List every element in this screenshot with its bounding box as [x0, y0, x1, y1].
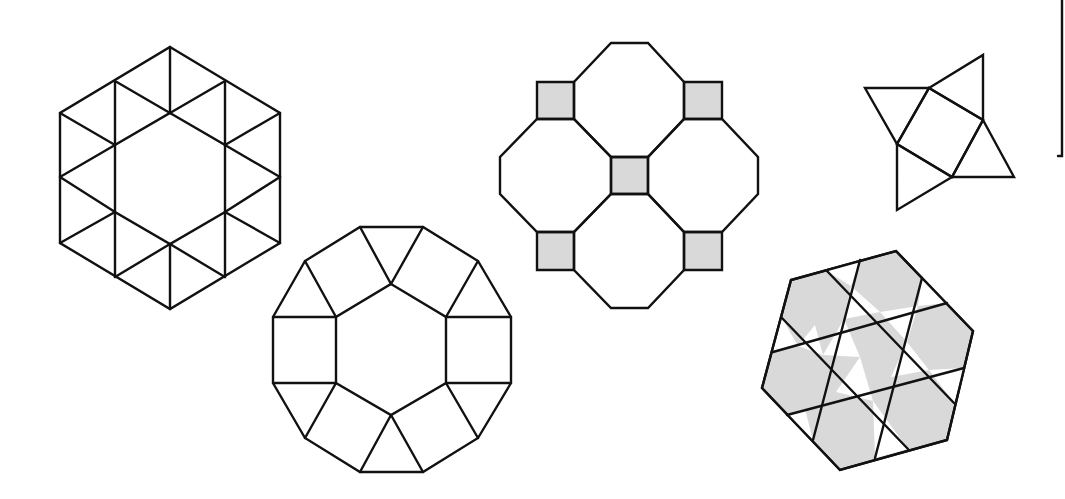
hexagon-triangles-edge-line	[60, 113, 115, 145]
square-four-triangles-polygon	[897, 88, 983, 177]
dodecagon-squares-triangles-edge-line	[305, 383, 336, 438]
octagons-squares-polygon	[684, 82, 722, 119]
hexagon-triangles-figure	[60, 47, 280, 309]
tessellation-diagram	[0, 0, 1065, 499]
dodecagon-squares-triangles-edge-line	[360, 227, 391, 284]
dodecagon-squares-triangles-edge-line	[391, 227, 423, 284]
hexagon-triangles-polygon	[115, 113, 225, 244]
octagons-squares-polygon	[611, 157, 648, 194]
gray-hexagon-trihexagonal-figure	[762, 251, 973, 470]
hexagon-triangles-edge-line	[60, 145, 115, 177]
octagons-squares-polygon	[574, 43, 684, 157]
square-four-triangles-polygon	[897, 144, 952, 210]
hexagon-triangles-edge-line	[225, 113, 280, 145]
dodecagon-squares-triangles-edge-line	[391, 415, 423, 472]
dodecagon-squares-triangles-polygon	[336, 284, 446, 415]
octagons-squares-polygon	[500, 119, 611, 232]
dodecagon-squares-triangles-edge-line	[305, 261, 336, 317]
octagons-squares-polygon	[684, 232, 722, 270]
gray-hexagon-trihexagonal-white-triangle	[918, 278, 947, 306]
square-four-triangles-figure	[865, 55, 1014, 210]
hexagon-triangles-edge-line	[60, 212, 115, 243]
hexagon-triangles-edge-line	[225, 212, 280, 243]
hexagon-triangles-edge-line	[115, 244, 170, 277]
dodecagon-squares-triangles-edge-line	[360, 415, 391, 472]
gray-hexagon-trihexagonal-polygon	[762, 251, 973, 470]
dodecagon-squares-triangles-figure	[273, 227, 511, 472]
octagons-squares-polygon	[537, 82, 574, 119]
dodecagon-squares-triangles-edge-line	[446, 261, 478, 317]
dodecagon-squares-triangles-edge-line	[446, 383, 478, 438]
octagons-squares-polygon	[648, 119, 758, 232]
octagons-squares-polygon	[574, 194, 684, 308]
octagons-squares-polygon	[537, 232, 574, 270]
hexagon-triangles-edge-line	[225, 145, 280, 177]
square-four-triangles-polygon	[952, 120, 1014, 177]
hexagon-triangles-edge-line	[225, 177, 280, 212]
hexagon-triangles-edge-line	[60, 177, 115, 212]
octagons-squares-figure	[500, 43, 758, 308]
hexagon-triangles-edge-line	[170, 81, 225, 113]
square-four-triangles-polygon	[865, 88, 929, 144]
hexagon-triangles-edge-line	[115, 81, 170, 113]
hexagon-triangles-edge-line	[170, 244, 225, 277]
square-four-triangles-polygon	[929, 55, 983, 120]
frame-edge-line	[1058, 0, 1062, 156]
